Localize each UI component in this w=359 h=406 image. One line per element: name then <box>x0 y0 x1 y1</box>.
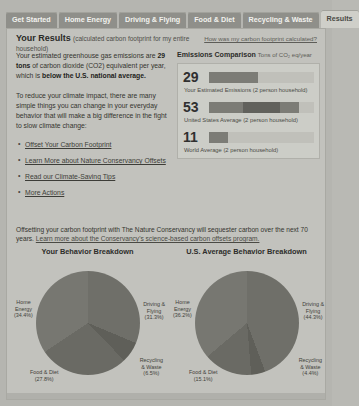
pie-slice-label: Recycling& Waste(4.4%) <box>299 357 322 377</box>
list-item: Learn More about Nature Conservancy Offs… <box>25 156 168 165</box>
comparison-unit-label: Tons of CO₂ eq/year <box>258 52 312 58</box>
page-title-text: Your Results <box>16 33 71 43</box>
action-link-1[interactable]: Offset Your Carbon Footprint <box>25 141 111 148</box>
pie-wrap: Driving &Flying(44.3%)Recycling& Waste(4… <box>167 269 326 399</box>
emissions-bar-track <box>209 132 314 143</box>
emissions-bar-segment <box>243 102 281 113</box>
us-average-pie-chart: U.S. Average Behavior BreakdownDriving &… <box>167 247 326 401</box>
list-item: Offset Your Carbon Footprint <box>25 140 168 149</box>
tab-driving-flying[interactable]: Driving & Flying <box>119 12 186 28</box>
offset-note: Offsetting your carbon footprint with Th… <box>16 225 318 244</box>
action-link-2[interactable]: Learn More about Nature Conservancy Offs… <box>25 157 166 164</box>
emissions-comparison: Emissions Comparison Tons of CO₂ eq/year… <box>177 51 320 159</box>
action-links-list: Offset Your Carbon FootprintLearn More a… <box>16 140 168 197</box>
tab-results[interactable]: Results <box>321 10 359 28</box>
action-link-3[interactable]: Read our Climate-Saving Tips <box>25 173 115 180</box>
how-calculated-link[interactable]: How was my carbon footprint calculated? <box>204 35 317 42</box>
your-behavior-pie-chart: Your Behavior BreakdownDriving &Flying(3… <box>8 247 167 401</box>
offset-program-link[interactable]: Learn more about the Conservancy's scien… <box>36 235 260 242</box>
emissions-comparison-title: Emissions Comparison Tons of CO₂ eq/year <box>177 51 320 59</box>
emissions-bar-line: 53 <box>183 99 314 116</box>
emissions-bar-fill <box>209 132 228 143</box>
pie-slice-label: HomeEnergy(36.2%) <box>173 299 192 319</box>
emissions-bar-row: 11World Average (2 person household) <box>183 129 314 153</box>
emissions-bar-track <box>209 72 314 83</box>
emissions-summary-paragraph: Your estimated greenhouse gas emissions … <box>16 51 168 82</box>
reduce-impact-paragraph: To reduce your climate impact, there are… <box>16 91 168 132</box>
emissions-bar-label: United States Average (2 person househol… <box>183 117 314 123</box>
emissions-bar-row: 53United States Average (2 person househ… <box>183 99 314 123</box>
summary-comparison-phrase: below the U.S. national average. <box>42 72 146 79</box>
emissions-bar-value: 29 <box>183 69 209 86</box>
panel-bottom-edge <box>7 393 325 399</box>
emissions-bar-label: World Average (2 person household) <box>183 147 314 153</box>
emissions-bar-row: 29Your Estimated Emissions (2 person hou… <box>183 69 314 93</box>
pie-slice-label: Driving &Flying(44.3%) <box>302 301 324 321</box>
tab-recycling-waste[interactable]: Recycling & Waste <box>243 12 319 28</box>
tab-home-energy[interactable]: Home Energy <box>59 12 117 28</box>
emissions-bar-value: 11 <box>183 129 209 146</box>
pie-slice-label: Food & Diet(27.8%) <box>30 369 58 382</box>
emissions-bars-container: 29Your Estimated Emissions (2 person hou… <box>177 63 320 159</box>
pie-slice-label: Recycling& Waste(6.5%) <box>140 357 163 377</box>
emissions-bar-line: 29 <box>183 69 314 86</box>
chart-title: U.S. Average Behavior Breakdown <box>167 247 326 256</box>
comparison-title-text: Emissions Comparison <box>177 51 256 59</box>
emissions-bar-value: 53 <box>183 99 209 116</box>
emissions-bar-track <box>209 102 314 113</box>
pie-wrap: Driving &Flying(31.3%)Recycling& Waste(6… <box>8 269 167 399</box>
pie-graphic <box>195 271 299 375</box>
pie-slice-label: Food & Diet(15.1%) <box>189 369 217 382</box>
pie-slice-label: HomeEnergy(34.4%) <box>14 299 33 319</box>
tab-bar: Get StartedHome EnergyDriving & FlyingFo… <box>6 10 328 28</box>
tab-food-diet[interactable]: Food & Diet <box>188 12 240 28</box>
chart-title: Your Behavior Breakdown <box>8 247 167 256</box>
breakdown-charts: Your Behavior BreakdownDriving &Flying(3… <box>7 247 325 401</box>
emissions-bar-line: 11 <box>183 129 314 146</box>
results-panel: Your Results (calculated carbon footprin… <box>6 28 326 400</box>
tab-get-started[interactable]: Get Started <box>6 12 57 28</box>
list-item: More Actions <box>25 188 168 197</box>
emissions-bar-label: Your Estimated Emissions (2 person house… <box>183 87 314 93</box>
list-item: Read our Climate-Saving Tips <box>25 172 168 181</box>
pie-graphic <box>36 271 140 375</box>
summary-column: Your estimated greenhouse gas emissions … <box>16 51 168 204</box>
pie-slice-label: Driving &Flying(31.3%) <box>143 301 165 321</box>
action-link-4[interactable]: More Actions <box>25 189 64 196</box>
summary-text-1: Your estimated greenhouse gas emissions … <box>16 52 157 59</box>
emissions-bar-fill <box>209 72 258 83</box>
